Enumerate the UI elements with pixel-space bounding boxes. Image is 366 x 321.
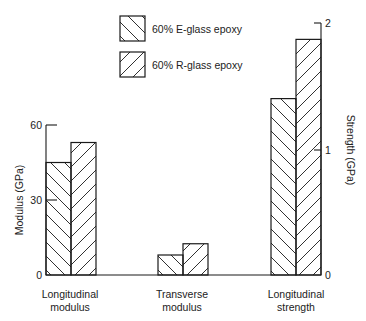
legend: 60% E-glass epoxy 60% R-glass epoxy [120,16,243,77]
category-label-transverse-modulus-line2: modulus [162,301,202,313]
category-label-transverse-modulus-line1: Transverse [156,288,208,300]
category-label-longitudinal-modulus-line2: modulus [50,301,90,313]
legend-swatch-e-glass [120,16,145,41]
left-tick-60: 60 [30,119,42,131]
bar-longitudinal-strength-r-glass [296,39,321,275]
bars [46,39,321,275]
legend-item-e-glass: 60% E-glass epoxy [120,16,243,41]
bar-longitudinal-strength-e-glass [271,99,296,275]
bar-chart: 60% E-glass epoxy 60% R-glass epoxy 60 3… [0,0,366,321]
legend-swatch-r-glass [120,52,145,77]
left-tick-30: 30 [30,194,42,206]
legend-item-r-glass: 60% R-glass epoxy [120,52,243,77]
category-label-longitudinal-modulus-line1: Longitudinal [42,288,99,300]
category-label-longitudinal-strength-line1: Longitudinal [268,288,325,300]
category-label-longitudinal-strength-line2: strength [277,301,315,313]
bar-transverse-modulus-r-glass [183,244,208,275]
bar-transverse-modulus-e-glass [158,255,183,275]
right-axis-label: Strength (GPa) [345,115,357,186]
left-axis-label: Modulus (GPa) [13,165,25,236]
right-tick-2: 2 [325,17,331,29]
left-tick-0: 0 [36,269,42,281]
right-tick-1: 1 [325,144,331,156]
category-labels: Longitudinal modulus Transverse modulus … [42,288,325,313]
legend-label-e-glass: 60% E-glass epoxy [152,23,243,35]
right-tick-0: 0 [325,269,331,281]
legend-label-r-glass: 60% R-glass epoxy [152,59,243,71]
bar-longitudinal-modulus-r-glass [71,143,96,276]
bar-longitudinal-modulus-e-glass [46,163,71,276]
